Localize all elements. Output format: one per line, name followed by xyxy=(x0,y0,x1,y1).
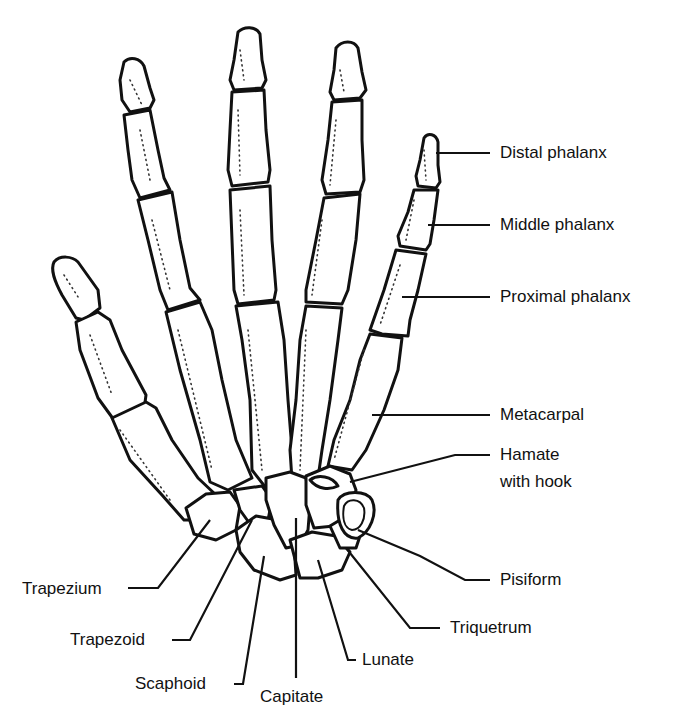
label-trapezium: Trapezium xyxy=(22,578,102,599)
hand-bones-diagram: Distal phalanx Middle phalanx Proximal p… xyxy=(0,0,681,728)
leader-scaphoid xyxy=(234,556,264,684)
label-capitate: Capitate xyxy=(260,686,323,707)
label-trapezoid: Trapezoid xyxy=(70,629,145,650)
label-metacarpal: Metacarpal xyxy=(500,404,584,425)
hand-skeleton-illustration xyxy=(0,0,681,728)
label-hamate: Hamate xyxy=(500,444,560,465)
label-lunate: Lunate xyxy=(362,649,414,670)
leader-pisiform xyxy=(358,530,490,580)
label-triquetrum: Triquetrum xyxy=(450,617,532,638)
label-middle-phalanx: Middle phalanx xyxy=(500,214,614,235)
label-proximal-phalanx: Proximal phalanx xyxy=(500,286,630,307)
label-pisiform: Pisiform xyxy=(500,569,561,590)
leader-hamate xyxy=(350,455,490,482)
label-distal-phalanx: Distal phalanx xyxy=(500,142,607,163)
label-hamate-hook: with hook xyxy=(500,471,572,492)
middle-finger xyxy=(228,28,298,488)
label-scaphoid: Scaphoid xyxy=(135,673,206,694)
